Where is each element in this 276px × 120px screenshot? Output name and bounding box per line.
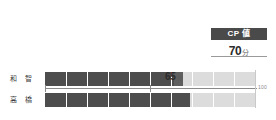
bar-row-label: 高 橋 [10,93,42,107]
bar-row-takahashi: 高 橋 68分 [0,93,276,107]
axis-tick-50 [150,85,151,92]
bar-value-unit: 分 [177,75,183,81]
bar-track [45,72,255,86]
axis-max-label: 100 [258,84,267,90]
bar-row-wachi: 和 智 65分 [0,72,276,86]
chart-root: CP 値 70分 和 智 [0,0,276,120]
value-axis [45,88,257,89]
bar-track [45,93,255,107]
cp-card-title: CP 値 [211,28,267,40]
bar-value-label: 65分 [165,70,183,83]
bar-segment-dividers [45,93,255,107]
cp-value-card: CP 値 70分 [211,28,267,57]
bar-chart-plot: 和 智 65分 [0,62,276,118]
cp-card-value: 70分 [211,40,267,55]
axis-tick-0 [45,85,46,92]
bar-segment-dividers [45,72,255,86]
cp-card-unit: 分 [242,49,249,56]
cp-card-number: 70 [229,44,242,58]
bar-value-number: 65 [165,71,176,82]
bar-row-label: 和 智 [10,72,42,86]
